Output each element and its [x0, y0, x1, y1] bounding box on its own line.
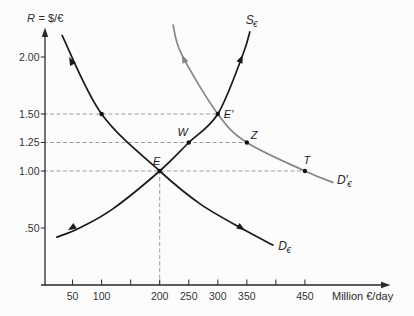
y-tick-label: 1.50 — [19, 108, 40, 120]
figure-container: 50100200250300350450 .501.001.251.502.00… — [0, 0, 414, 316]
dashed-guides — [44, 114, 305, 285]
x-axis-arrow-icon — [381, 282, 391, 288]
point-label-E′: E′ — [224, 108, 234, 120]
data-point-marker — [216, 112, 220, 116]
svg-text:€: € — [347, 179, 353, 189]
y-axis-title-variable: R — [27, 12, 35, 24]
x-tick-label: 50 — [67, 290, 79, 302]
x-tick-label: 200 — [151, 290, 169, 302]
data-point-marker — [99, 112, 103, 116]
x-tick-label: 350 — [238, 290, 256, 302]
x-tick-label: 100 — [93, 290, 111, 302]
point-label-T: T — [304, 154, 312, 166]
curve-label-supply: S€ — [246, 13, 259, 29]
axes — [41, 28, 391, 289]
y-tick-label: 1.25 — [19, 136, 40, 148]
svg-text:€: € — [286, 245, 292, 255]
exchange-rate-chart: 50100200250300350450 .501.001.251.502.00… — [0, 0, 414, 316]
y-axis-title-units: = $/€ — [39, 12, 64, 24]
x-axis-ticks: 50100200250300350450 — [67, 280, 314, 303]
supply-curve — [57, 32, 250, 237]
svg-text:€: € — [253, 19, 259, 29]
demand-curve — [62, 35, 273, 245]
curve-labels: D€S€D′€ — [246, 13, 353, 255]
y-axis-ticks: .501.001.251.502.00 — [19, 51, 45, 234]
point-labels: EE′WZT — [153, 108, 312, 167]
x-axis-title: Million €/day — [332, 290, 394, 302]
data-point-marker — [158, 169, 162, 173]
x-tick-label: 450 — [296, 290, 314, 302]
y-tick-label: 1.00 — [19, 165, 40, 177]
curve-arrow-icon — [236, 223, 247, 233]
curve-arrow-icon — [179, 53, 188, 63]
curve-arrow-icon — [237, 53, 246, 63]
y-axis-arrow-icon — [42, 28, 48, 38]
curve-direction-arrows — [66, 53, 247, 233]
x-tick-label: 300 — [209, 290, 227, 302]
x-tick-label: 250 — [180, 290, 198, 302]
curve-label-demand_shifted: D′€ — [337, 173, 353, 189]
point-label-Z: Z — [250, 129, 259, 141]
data-point-marker — [187, 140, 191, 144]
y-tick-label: 2.00 — [19, 51, 40, 63]
axis-titles: R = $/€ Million €/day — [27, 12, 394, 302]
data-point-marker — [245, 140, 249, 144]
y-tick-label: .50 — [25, 222, 40, 234]
data-point-marker — [303, 169, 307, 173]
point-label-E: E — [153, 155, 161, 167]
curve-label-demand: D€ — [278, 239, 292, 255]
point-label-W: W — [178, 126, 190, 138]
